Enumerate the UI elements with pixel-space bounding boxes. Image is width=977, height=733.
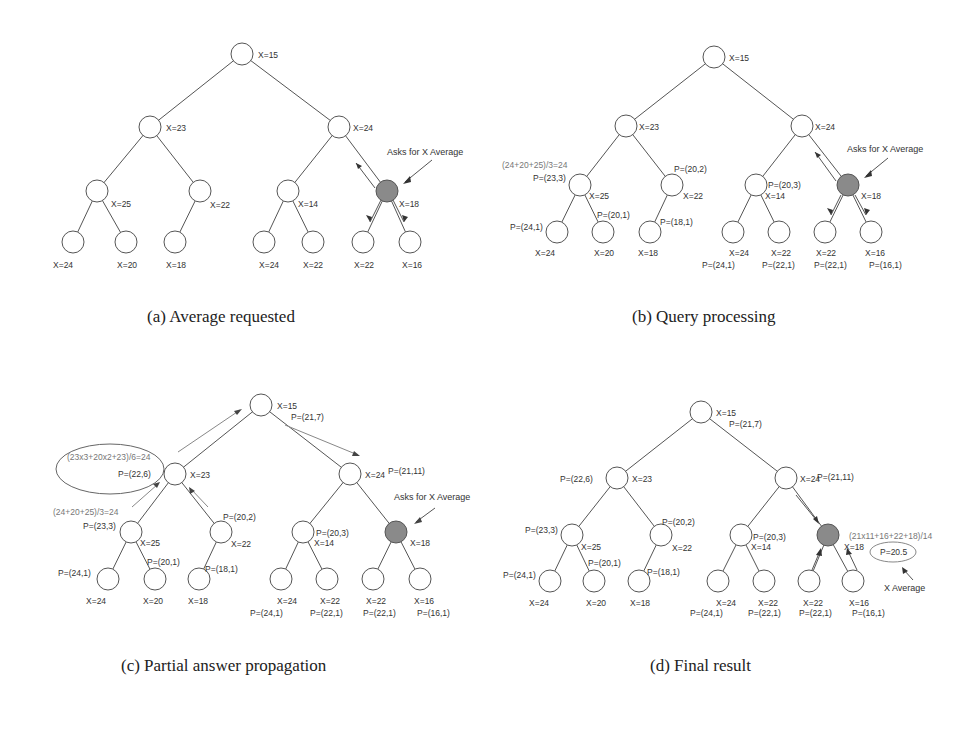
- label: X=16: [414, 596, 434, 606]
- partial: P=(24,1): [503, 570, 536, 580]
- querying-node: [376, 180, 398, 202]
- label: X=24: [353, 123, 373, 133]
- annotation-asks-average: Asks for X Average: [847, 144, 923, 154]
- label: X=24: [815, 122, 835, 132]
- partial: P=(22,1): [748, 608, 781, 618]
- panel-a-tree: X=15 X=23 X=24 X=25 X=22 X=14 X=18 X=24 …: [0, 0, 977, 733]
- label: X=15: [716, 408, 736, 418]
- partial: P=(20,3): [753, 532, 786, 542]
- label: X=25: [581, 542, 601, 552]
- partial: P=(24,1): [250, 608, 283, 618]
- partial: P=(16,1): [417, 608, 450, 618]
- formula: (24+20+25)/3=24: [53, 507, 119, 517]
- label: X=24: [259, 260, 279, 270]
- label: X=18: [399, 199, 419, 209]
- partial: P=(24,1): [690, 608, 723, 618]
- partial: P=(22,1): [814, 260, 847, 270]
- node-root: [231, 43, 253, 65]
- label: X=18: [844, 542, 864, 552]
- partial: P=(23,3): [533, 173, 566, 183]
- label: X=23: [190, 470, 210, 480]
- label: X=22: [771, 248, 791, 258]
- label: X=24: [365, 470, 385, 480]
- label: X=18: [861, 191, 881, 201]
- label: X=24: [535, 248, 555, 258]
- partial: P=(23,3): [83, 521, 116, 531]
- partial: P=(21,11): [817, 472, 854, 482]
- partial: P=(22,1): [310, 608, 343, 618]
- result-value: P=20.5: [880, 547, 907, 557]
- label: X=18: [638, 248, 658, 258]
- label: X=22: [366, 596, 386, 606]
- label: X=24: [53, 260, 73, 270]
- partial: P=(24,1): [702, 260, 735, 270]
- formula-ellipse: (23x3+20x2+23)/6=24: [67, 452, 151, 462]
- partial: P=(22,1): [363, 608, 396, 618]
- label: X=16: [402, 260, 422, 270]
- label: X=22: [816, 248, 836, 258]
- label: X=18: [166, 260, 186, 270]
- partial: P=(22,6): [560, 474, 593, 484]
- label: X=24: [277, 596, 297, 606]
- partial: P=(21,11): [388, 466, 425, 476]
- partial: P=(20,1): [147, 557, 180, 567]
- partial: P=(24,1): [510, 222, 543, 232]
- partial: P=(21,7): [291, 412, 324, 422]
- partial: P=(16,1): [852, 608, 885, 618]
- label: X=24: [529, 598, 549, 608]
- label: X=14: [298, 199, 318, 209]
- label: X=22: [354, 260, 374, 270]
- label: X=16: [849, 598, 869, 608]
- label: X=20: [586, 598, 606, 608]
- annotation-asks-average: Asks for X Average: [387, 147, 463, 157]
- partial: P=(18,1): [647, 567, 680, 577]
- result-label: X Average: [884, 583, 925, 593]
- partial: P=(20,1): [588, 558, 621, 568]
- label: X=18: [188, 596, 208, 606]
- partial: P=(20,2): [223, 512, 256, 522]
- label: X=14: [765, 191, 785, 201]
- label: X=22: [672, 543, 692, 553]
- label: X=22: [303, 260, 323, 270]
- label: X=20: [143, 596, 163, 606]
- partial: P=(23,3): [525, 525, 558, 535]
- partial: P=(18,1): [660, 217, 693, 227]
- label: X=20: [117, 260, 137, 270]
- partial: P=(20,2): [674, 164, 707, 174]
- figure-canvas: X=15 X=23 X=24 X=25 X=22 X=14 X=18 X=24 …: [0, 0, 977, 733]
- label: X=22: [803, 598, 823, 608]
- label: X=22: [210, 200, 230, 210]
- label: X=15: [729, 53, 749, 63]
- label: X=24: [716, 598, 736, 608]
- partial: P=(22,6): [118, 469, 151, 479]
- label: X=20: [594, 248, 614, 258]
- caption-b: (b) Query processing: [632, 307, 776, 327]
- label: X=15: [277, 401, 297, 411]
- label: X=22: [320, 596, 340, 606]
- partial: P=(18,1): [205, 564, 238, 574]
- caption-c: (c) Partial answer propagation: [121, 656, 326, 676]
- label: X=22: [758, 598, 778, 608]
- label: X=22: [683, 191, 703, 201]
- partial: P=(24,1): [58, 568, 91, 578]
- label: X=25: [589, 191, 609, 201]
- label: X=14: [751, 542, 771, 552]
- label: X=16: [865, 248, 885, 258]
- formula: (21x11+16+22+18)/14: [849, 531, 933, 541]
- label: X=14: [314, 538, 334, 548]
- caption-d: (d) Final result: [650, 656, 751, 676]
- label: X=24: [729, 248, 749, 258]
- partial: P=(20,1): [597, 210, 630, 220]
- label: X=24: [86, 596, 106, 606]
- partial: P=(20,3): [768, 180, 801, 190]
- caption-a: (a) Average requested: [147, 307, 295, 327]
- partial: P=(20,2): [662, 517, 695, 527]
- label: X=25: [140, 538, 160, 548]
- annotation-asks-average: Asks for X Average: [394, 492, 470, 502]
- label: X=18: [630, 598, 650, 608]
- label-root: X=15: [258, 50, 278, 60]
- label: X=25: [111, 199, 131, 209]
- label: X=22: [231, 539, 251, 549]
- label: X=23: [639, 122, 659, 132]
- partial: P=(20,3): [316, 528, 349, 538]
